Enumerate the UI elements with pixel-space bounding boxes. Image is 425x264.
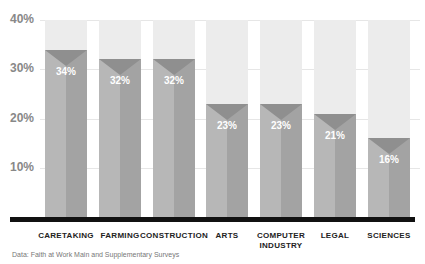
bar-triangle-marker [99, 59, 141, 75]
bar-arts: 23% [206, 20, 248, 217]
clipped-title [0, 0, 425, 4]
bar-farming: 32% [99, 20, 141, 217]
bar-sciences: 16% [368, 20, 410, 217]
bar-triangle-marker [153, 59, 195, 75]
y-tick-label: 20% [10, 111, 34, 125]
bar-triangle-marker [260, 104, 302, 120]
bar-value-label: 32% [153, 75, 195, 86]
bar-triangle-marker [45, 50, 87, 66]
bar-value-label: 23% [206, 120, 248, 131]
bar-triangle-marker [206, 104, 248, 120]
bar-value-label: 16% [368, 154, 410, 165]
bar-construction: 32% [153, 20, 195, 217]
bar-caretaking: 34% [45, 20, 87, 217]
bar-value-label: 23% [260, 120, 302, 131]
bar-value-label: 34% [45, 66, 87, 77]
bar-triangle-marker [314, 114, 356, 130]
bar-legal: 21% [314, 20, 356, 217]
bar-triangle-marker [368, 138, 410, 154]
baseline [10, 217, 415, 222]
y-tick-label: 10% [10, 160, 34, 174]
bar-computer-industry: 23% [260, 20, 302, 217]
source-note: Data: Faith at Work Main and Supplementa… [12, 251, 179, 258]
bar-value-label: 21% [314, 130, 356, 141]
x-category-label: SCIENCES [354, 231, 424, 241]
bar-value-label: 32% [99, 75, 141, 86]
y-tick-label: 30% [10, 61, 34, 75]
y-tick-label: 40% [10, 12, 34, 26]
